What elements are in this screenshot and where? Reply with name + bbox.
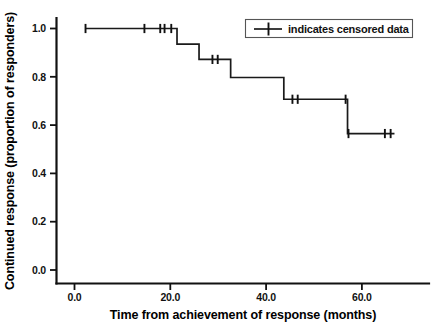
axes-group xyxy=(57,18,430,284)
y-axis-title: Continued response (proportion of respon… xyxy=(3,12,17,290)
y-tick-label-1: 0.2 xyxy=(32,215,46,227)
y-axis-tick-labels: 1.0 0.8 0.6 0.4 0.2 0.0 xyxy=(32,22,46,276)
censored-marks-group xyxy=(86,24,391,138)
y-tick-label-3: 0.6 xyxy=(32,119,46,131)
x-axis-title: Time from achievement of response (month… xyxy=(110,308,376,322)
y-tick-label-4: 0.8 xyxy=(32,71,46,83)
chart-canvas: 1.0 0.8 0.6 0.4 0.2 0.0 0.0 20.0 40.0 60… xyxy=(0,0,435,326)
y-tick-label-0: 0.0 xyxy=(32,264,46,276)
y-tick-label-2: 0.4 xyxy=(32,167,46,179)
x-tick-label-0: 0.0 xyxy=(68,291,82,303)
x-axis-tick-labels: 0.0 20.0 40.0 60.0 xyxy=(68,291,373,303)
x-tick-label-2: 40.0 xyxy=(256,291,276,303)
legend-label: indicates censored data xyxy=(288,23,410,35)
survival-step-curve xyxy=(86,29,395,134)
x-tick-label-3: 60.0 xyxy=(352,291,372,303)
kaplan-meier-chart: 1.0 0.8 0.6 0.4 0.2 0.0 0.0 20.0 40.0 60… xyxy=(0,0,435,326)
legend: indicates censored data xyxy=(246,20,413,38)
x-tick-label-1: 20.0 xyxy=(160,291,180,303)
y-tick-label-5: 1.0 xyxy=(32,22,46,34)
